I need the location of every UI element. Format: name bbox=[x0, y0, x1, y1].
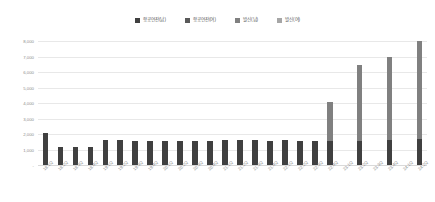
x-axis: 18.1Q18.2Q18.3Q18.4Q19.1Q19.2Q19.3Q19.4Q… bbox=[38, 166, 427, 200]
legend-item[interactable]: 발신(여) bbox=[277, 17, 300, 23]
bar-group[interactable] bbox=[327, 102, 333, 165]
y-axis-tick-label: 8,000 bbox=[23, 39, 34, 44]
bar-segment[interactable] bbox=[387, 57, 393, 140]
chart-legend: 항공연잔(남) 항공연잔(여) 발신(남) 발신(여) bbox=[0, 14, 435, 26]
legend-item[interactable]: 발신(남) bbox=[235, 17, 258, 23]
stacked-bar-chart: 항공연잔(남) 항공연잔(여) 발신(남) 발신(여) -1,0002,0003… bbox=[0, 0, 435, 202]
bar-group[interactable] bbox=[417, 41, 423, 165]
legend-swatch-icon bbox=[235, 18, 240, 23]
y-axis-tick-label: 7,000 bbox=[23, 54, 34, 59]
bar-segment[interactable] bbox=[43, 133, 49, 165]
y-axis-tick-label: 5,000 bbox=[23, 85, 34, 90]
bar-group[interactable] bbox=[387, 57, 393, 165]
legend-item-label: 항공연잔(여) bbox=[193, 17, 216, 23]
legend-swatch-icon bbox=[277, 18, 282, 23]
bar-segment[interactable] bbox=[357, 65, 363, 141]
legend-item[interactable]: 항공연잔(여) bbox=[185, 17, 216, 23]
y-axis-tick-label: 6,000 bbox=[23, 70, 34, 75]
legend-item-label: 항공연잔(남) bbox=[143, 17, 166, 23]
bar-segment[interactable] bbox=[357, 141, 363, 165]
bar-segment[interactable] bbox=[417, 139, 423, 165]
y-axis-tick-label: - bbox=[33, 163, 34, 168]
legend-swatch-icon bbox=[135, 18, 140, 23]
legend-item-label: 발신(여) bbox=[285, 17, 300, 23]
bar-group[interactable] bbox=[357, 65, 363, 165]
bar-group[interactable] bbox=[43, 133, 49, 165]
y-axis-tick-label: 2,000 bbox=[23, 132, 34, 137]
legend-swatch-icon bbox=[185, 18, 190, 23]
bar-series-container bbox=[38, 41, 427, 165]
bar-segment[interactable] bbox=[387, 140, 393, 165]
legend-item[interactable]: 항공연잔(남) bbox=[135, 17, 166, 23]
bar-segment[interactable] bbox=[417, 41, 423, 139]
bar-segment[interactable] bbox=[327, 141, 333, 165]
plot-area bbox=[38, 41, 427, 165]
legend-item-label: 발신(남) bbox=[243, 17, 258, 23]
y-axis-tick-label: 1,000 bbox=[23, 147, 34, 152]
y-axis-tick-label: 3,000 bbox=[23, 116, 34, 121]
y-axis-tick-label: 4,000 bbox=[23, 101, 34, 106]
bar-segment[interactable] bbox=[327, 102, 333, 141]
y-axis: -1,0002,0003,0004,0005,0006,0007,0008,00… bbox=[0, 41, 36, 165]
